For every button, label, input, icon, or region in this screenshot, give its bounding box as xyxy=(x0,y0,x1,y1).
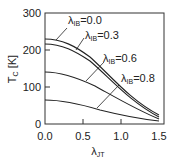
xtick-0: 0.0 xyxy=(37,130,52,142)
ytick-300: 300 xyxy=(23,7,41,19)
ytick-100: 100 xyxy=(23,81,41,93)
annotation-ib-0.8: λIB=0.8 xyxy=(121,72,155,85)
ytick-200: 200 xyxy=(23,44,41,56)
chart: 300 200 100 0 0.0 0.5 1.0 1.5 λJT TC [K]… xyxy=(0,0,181,161)
xtick-0.5: 0.5 xyxy=(75,130,90,142)
ytick-0: 0 xyxy=(35,118,41,130)
xtick-1.5: 1.5 xyxy=(151,130,166,142)
y-axis-label: TC [K] xyxy=(6,55,19,83)
annotation-ib-0.6: λIB=0.6 xyxy=(103,52,137,65)
annotation-ib-0.3: λIB=0.3 xyxy=(85,29,119,42)
xtick-1.0: 1.0 xyxy=(113,130,128,142)
annotation-ib-0.0: λIB=0.0 xyxy=(68,14,102,27)
x-axis-label: λJT xyxy=(91,145,105,158)
